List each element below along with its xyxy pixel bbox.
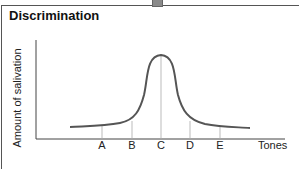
plot-area — [0, 0, 299, 169]
tick-label-a: A — [98, 139, 105, 151]
tick-label-d: D — [186, 139, 194, 151]
salivation-curve — [70, 55, 250, 128]
tick-label-e: E — [216, 139, 223, 151]
x-axis-label: Tones — [258, 139, 287, 151]
tick-label-c: C — [157, 139, 165, 151]
tick-label-b: B — [128, 139, 135, 151]
